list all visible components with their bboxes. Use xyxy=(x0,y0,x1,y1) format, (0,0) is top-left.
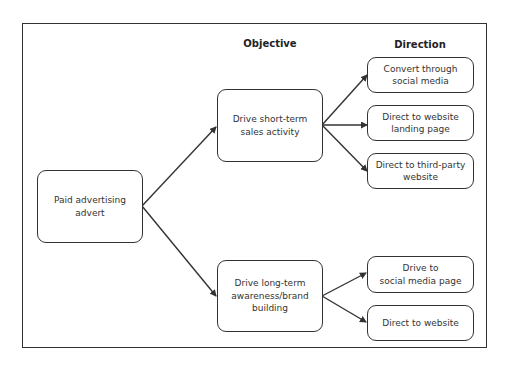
node-label: Direct to third-party website xyxy=(376,159,466,184)
node-label: Drive long-term awareness/brand building xyxy=(231,277,308,315)
node-label: Drive to social media page xyxy=(380,262,462,287)
node-label: Paid advertising advert xyxy=(54,194,126,219)
node-social-media-page: Drive to social media page xyxy=(367,256,474,293)
node-label: Direct to website xyxy=(382,317,459,330)
node-paid-advertising-advert: Paid advertising advert xyxy=(37,170,143,243)
node-label: Drive short-term sales activity xyxy=(233,113,308,138)
node-short-term-sales: Drive short-term sales activity xyxy=(217,89,323,162)
node-website-landing-page: Direct to website landing page xyxy=(367,105,474,141)
node-label: Convert through social media xyxy=(384,63,458,88)
node-third-party-website: Direct to third-party website xyxy=(367,153,474,189)
node-label: Direct to website landing page xyxy=(382,111,459,136)
node-convert-social-media: Convert through social media xyxy=(367,57,474,93)
node-direct-to-website: Direct to website xyxy=(367,305,474,341)
node-long-term-awareness: Drive long-term awareness/brand building xyxy=(217,260,323,332)
